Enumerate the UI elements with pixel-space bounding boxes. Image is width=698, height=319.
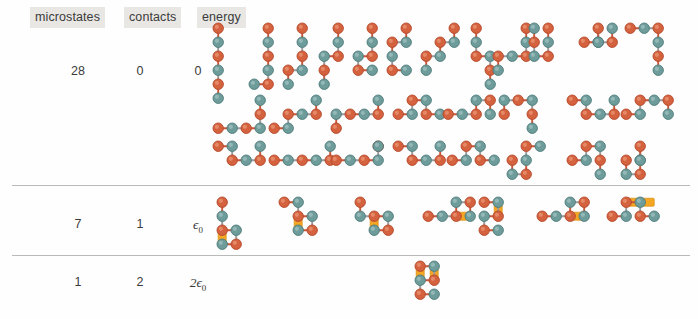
bead-highlight [409, 157, 413, 161]
conformation [421, 23, 459, 75]
bead-highlight [609, 39, 613, 43]
bead-highlight [481, 213, 485, 217]
conformation [387, 23, 411, 75]
bead-highlight [423, 97, 427, 101]
bead-highlight [369, 39, 373, 43]
bead-highlight [531, 53, 535, 57]
bead-highlight [355, 53, 359, 57]
bead-highlight [545, 39, 549, 43]
bead-highlight [637, 143, 641, 147]
bead-highlight [553, 213, 557, 217]
bead-highlight [453, 213, 457, 217]
bead-highlight [321, 67, 325, 71]
bead-highlight [595, 25, 599, 29]
conformation [283, 23, 307, 89]
bead-highlight [243, 125, 247, 129]
bead-highlight [567, 213, 571, 217]
bead-highlight [495, 227, 499, 231]
bead-highlight [495, 199, 499, 203]
bead-highlight [529, 97, 533, 101]
bead-highlight [481, 199, 485, 203]
bead-highlight [299, 67, 303, 71]
bead-highlight [523, 25, 527, 29]
bead-highlight [655, 39, 659, 43]
bead-highlight [233, 227, 237, 231]
bead-highlight [597, 111, 601, 115]
bead-highlight [321, 81, 325, 85]
conformation [567, 141, 605, 179]
bead-highlight [523, 53, 527, 57]
conformation [579, 23, 617, 47]
bead-highlight [403, 25, 407, 29]
bead-highlight [389, 53, 393, 57]
bead-highlight [423, 53, 427, 57]
bead-highlight [473, 97, 477, 101]
bead-highlight [583, 97, 587, 101]
bead-highlight [531, 39, 535, 43]
bead-highlight [623, 157, 627, 161]
bead-highlight [215, 25, 219, 29]
bead-highlight [437, 111, 441, 115]
conformation [607, 197, 659, 221]
bead-highlight [537, 143, 541, 147]
bead-highlight [655, 67, 659, 71]
conformation [319, 23, 343, 89]
bead-highlight [637, 157, 641, 161]
bead-highlight [355, 67, 359, 71]
bead-highlight [281, 199, 285, 203]
conformation [393, 141, 445, 165]
bead-highlight [467, 199, 471, 203]
bead-highlight [271, 157, 275, 161]
bead-highlight [385, 213, 389, 217]
conformation [415, 261, 439, 299]
bead-highlight [623, 111, 627, 115]
bead-highlight [389, 39, 393, 43]
conformation [355, 197, 393, 235]
bead-highlight [327, 143, 331, 147]
bead-highlight [423, 67, 427, 71]
bead-highlight [655, 25, 659, 29]
bead-highlight [583, 157, 587, 161]
bead-highlight [595, 39, 599, 43]
bead-highlight [597, 157, 601, 161]
bead-highlight [531, 25, 535, 29]
bead-highlight [265, 67, 269, 71]
bead-highlight [299, 25, 303, 29]
bead-highlight [229, 157, 233, 161]
bead-highlight [395, 111, 399, 115]
row-1-microstates-value: 7 [43, 217, 113, 231]
bead-highlight [333, 125, 337, 129]
bead-highlight [651, 213, 655, 217]
bead-highlight [477, 157, 481, 161]
row-0-microstates-value: 28 [43, 64, 113, 78]
column-header-contacts: contacts [124, 7, 181, 28]
bead-highlight [509, 171, 513, 175]
bead-highlight [437, 53, 441, 57]
conformation [507, 141, 545, 179]
bead-highlight [375, 157, 379, 161]
bead-highlight [215, 143, 219, 147]
bead-highlight [583, 143, 587, 147]
bead-highlight [423, 111, 427, 115]
bead-highlight [285, 81, 289, 85]
bead-highlight [299, 53, 303, 57]
bead-highlight [495, 53, 499, 57]
bead-highlight [409, 97, 413, 101]
bead-highlight [347, 111, 351, 115]
bead-highlight [251, 81, 255, 85]
conformation-panel-0-contacts [206, 8, 692, 182]
bead-highlight [285, 67, 289, 71]
bead-highlight [509, 157, 513, 161]
bead-highlight [515, 97, 519, 101]
bead-highlight [257, 97, 261, 101]
bead-highlight [445, 111, 449, 115]
bead-highlight [597, 143, 601, 147]
bead-highlight [371, 227, 375, 231]
conformation [529, 23, 553, 61]
column-header-microstates: microstates [30, 7, 105, 28]
bead-highlight [597, 171, 601, 175]
bead-highlight [257, 143, 261, 147]
conformation [213, 141, 265, 165]
bead-highlight [295, 199, 299, 203]
bead-highlight [371, 213, 375, 217]
